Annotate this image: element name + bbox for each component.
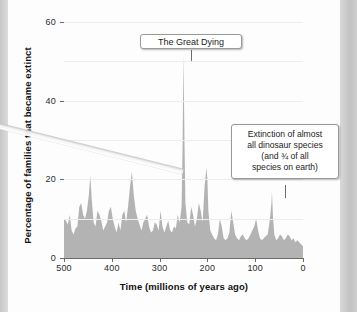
callout-kpg-extinction: Extinction of almost all dinosaur specie… bbox=[231, 124, 339, 179]
y-tick-60 bbox=[60, 22, 64, 23]
y-tick-label-40: 40 bbox=[34, 96, 56, 106]
x-tick-300 bbox=[160, 258, 161, 262]
y-tick-20 bbox=[60, 179, 64, 180]
callout-kpg-line-4: species on earth) bbox=[236, 162, 334, 173]
x-tick-label-100: 100 bbox=[247, 263, 263, 273]
gridline-10 bbox=[64, 219, 303, 220]
callout-kpg-line-2: all dinosaur species bbox=[236, 140, 334, 151]
x-tick-200 bbox=[207, 258, 208, 262]
x-axis-line bbox=[64, 258, 304, 259]
x-tick-label-0: 0 bbox=[300, 263, 305, 273]
y-tick-label-20: 20 bbox=[34, 174, 56, 184]
gridline-50 bbox=[64, 61, 303, 62]
x-tick-label-400: 400 bbox=[104, 263, 120, 273]
callout-kpg-line-3: (and ¾ of all bbox=[236, 151, 334, 162]
x-tick-0 bbox=[303, 258, 304, 262]
x-axis-title: Time (millions of years ago) bbox=[64, 281, 304, 292]
extinction-intensity-chart: Percentage of families that became extin… bbox=[0, 0, 357, 312]
callout-leader-great-dying bbox=[191, 50, 192, 61]
y-axis-title: Percentage of families that became extin… bbox=[22, 41, 33, 251]
gridline-40 bbox=[64, 101, 303, 102]
y-tick-0 bbox=[60, 258, 64, 259]
gridline-20 bbox=[64, 179, 303, 180]
callout-leader-kpg-extinction bbox=[285, 185, 286, 198]
x-tick-100 bbox=[255, 258, 256, 262]
gridline-60 bbox=[64, 22, 303, 23]
y-tick-40 bbox=[60, 101, 64, 102]
screenshot-page: Percentage of families that became extin… bbox=[0, 0, 357, 312]
x-tick-label-500: 500 bbox=[56, 263, 72, 273]
callout-great-dying: The Great Dying bbox=[140, 34, 242, 49]
x-tick-label-300: 300 bbox=[152, 263, 168, 273]
y-tick-label-0: 0 bbox=[34, 253, 56, 263]
x-tick-label-200: 200 bbox=[200, 263, 216, 273]
x-tick-400 bbox=[112, 258, 113, 262]
x-tick-500 bbox=[64, 258, 65, 262]
callout-kpg-line-1: Extinction of almost bbox=[236, 129, 334, 140]
y-tick-label-60: 60 bbox=[34, 17, 56, 27]
